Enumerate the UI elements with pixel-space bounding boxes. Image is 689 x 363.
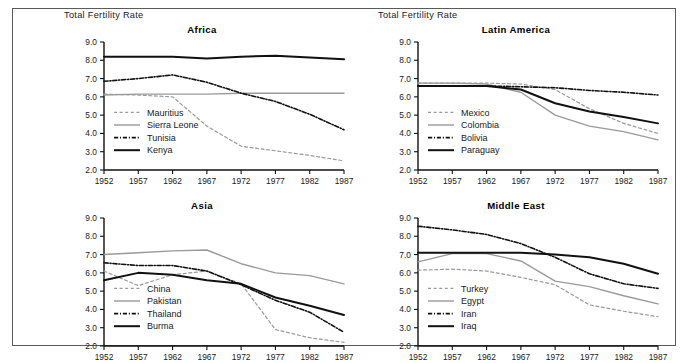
legend-label-sierra-leone: Sierra Leone [147,120,199,130]
y-tick-label: 3.0 [85,323,97,333]
y-tick-label: 3.0 [85,147,97,157]
y-tick-label: 4.0 [85,128,97,138]
x-tick-label: 1957 [129,352,148,362]
series-line-kenya [104,56,344,60]
y-tick-label: 8.0 [399,231,411,241]
series-line-sierra-leone [104,93,344,95]
y-tick-label: 8.0 [85,55,97,65]
legend-label-china: China [147,284,171,294]
x-tick-label: 1962 [163,176,182,186]
y-tick-label: 9.0 [85,213,97,223]
x-tick-label: 1982 [614,176,633,186]
y-tick-label: 4.0 [85,304,97,314]
legend-label-egypt: Egypt [461,296,485,306]
y-tick-label: 5.0 [85,286,97,296]
y-tick-label: 2.0 [399,165,411,175]
y-tick-label: 2.0 [85,341,97,351]
x-tick-label: 1952 [409,176,428,186]
x-tick-label: 1987 [335,176,354,186]
chart-panel-middle-east: Middle East2.03.04.05.06.07.08.09.019521… [366,186,666,361]
legend-label-iraq: Iraq [461,321,477,331]
chart-panel-asia: Asia2.03.04.05.06.07.08.09.0195219571962… [52,186,352,361]
x-tick-label: 1957 [443,176,462,186]
y-axis-label: Total Fertility Rate [64,10,144,20]
plot-area: 2.03.04.05.06.07.08.09.01952195719621967… [52,212,352,362]
x-tick-label: 1977 [266,176,285,186]
legend-label-iran: Iran [461,309,477,319]
y-tick-label: 3.0 [399,323,411,333]
y-axis-label: Total Fertility Rate [378,10,458,20]
y-tick-label: 7.0 [85,74,97,84]
legend-label-pakistan: Pakistan [147,296,182,306]
legend-label-thailand: Thailand [147,309,182,319]
y-tick-label: 2.0 [85,165,97,175]
y-tick-label: 9.0 [399,37,411,47]
y-tick-label: 6.0 [399,268,411,278]
series-line-tunisia [104,75,344,130]
series-line-iran [418,226,658,288]
panel-title: Latin America [366,24,666,35]
x-tick-label: 1987 [649,176,668,186]
x-tick-label: 1972 [546,352,565,362]
legend-label-mexico: Mexico [461,108,490,118]
x-tick-label: 1967 [198,176,217,186]
chart-panel-latin-america: Total Fertility RateLatin America2.03.04… [366,10,666,190]
panel-title: Asia [52,200,352,211]
x-tick-label: 1952 [409,352,428,362]
y-tick-label: 3.0 [399,147,411,157]
series-line-bolivia [418,86,658,95]
x-tick-label: 1957 [443,352,462,362]
x-tick-label: 1952 [95,352,114,362]
legend-label-bolivia: Bolivia [461,133,488,143]
y-tick-label: 8.0 [399,55,411,65]
panel-grid: Total Fertility RateAfrica2.03.04.05.06.… [0,0,689,363]
chart-panel-africa: Total Fertility RateAfrica2.03.04.05.06.… [52,10,352,190]
y-tick-label: 6.0 [399,92,411,102]
y-tick-label: 4.0 [399,304,411,314]
y-tick-label: 4.0 [399,128,411,138]
x-tick-label: 1982 [614,352,633,362]
legend-label-paraguay: Paraguay [461,145,500,155]
series-line-pakistan [104,250,344,284]
panel-title: Africa [52,24,352,35]
legend-label-turkey: Turkey [461,284,489,294]
x-tick-label: 1967 [198,352,217,362]
legend-label-kenya: Kenya [147,145,173,155]
y-tick-label: 7.0 [85,250,97,260]
y-tick-label: 6.0 [85,268,97,278]
x-tick-label: 1972 [546,176,565,186]
x-tick-label: 1982 [300,352,319,362]
plot-area: 2.03.04.05.06.07.08.09.01952195719621967… [52,36,352,186]
x-tick-label: 1952 [95,176,114,186]
x-tick-label: 1967 [512,176,531,186]
series-line-mexico [418,83,658,133]
x-tick-label: 1967 [512,352,531,362]
x-tick-label: 1977 [580,352,599,362]
series-line-burma [104,273,344,315]
x-tick-label: 1982 [300,176,319,186]
x-tick-label: 1977 [266,352,285,362]
x-tick-label: 1962 [163,352,182,362]
y-tick-label: 9.0 [85,37,97,47]
x-tick-label: 1977 [580,176,599,186]
x-tick-label: 1957 [129,176,148,186]
y-tick-label: 8.0 [85,231,97,241]
plot-area: 2.03.04.05.06.07.08.09.01952195719621967… [366,36,666,186]
x-tick-label: 1962 [477,176,496,186]
y-tick-label: 5.0 [85,110,97,120]
x-tick-label: 1962 [477,352,496,362]
y-tick-label: 7.0 [399,74,411,84]
legend-label-mauritius: Mauritius [147,108,184,118]
series-line-turkey [418,269,658,317]
legend-label-burma: Burma [147,321,174,331]
y-tick-label: 9.0 [399,213,411,223]
y-tick-label: 7.0 [399,250,411,260]
y-tick-label: 6.0 [85,92,97,102]
y-tick-label: 5.0 [399,286,411,296]
x-tick-label: 1972 [232,352,251,362]
plot-area: 2.03.04.05.06.07.08.09.01952195719621967… [366,212,666,362]
panel-title: Middle East [366,200,666,211]
legend-label-tunisia: Tunisia [147,133,176,143]
legend-label-colombia: Colombia [461,120,499,130]
y-tick-label: 2.0 [399,341,411,351]
